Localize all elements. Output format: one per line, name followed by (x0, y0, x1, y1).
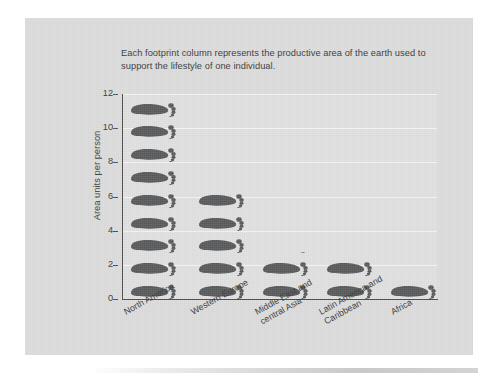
y-tick-mark (113, 231, 118, 232)
footprint-marker (127, 100, 179, 117)
footprint-marker (195, 236, 247, 253)
footprint-chart: 12 10 8 6 4 2 0 Area units per person No… (83, 84, 448, 314)
footprint-column-latin-america (323, 94, 381, 299)
plot-area (123, 94, 437, 299)
footprint-marker (195, 259, 247, 276)
y-tick-mark (113, 128, 118, 129)
footprint-marker (127, 191, 179, 208)
footprint-marker-partial (259, 249, 311, 253)
y-tick-mark (113, 94, 118, 95)
page-bottom-gradient-bar (90, 368, 478, 373)
y-tick-mark (113, 299, 118, 300)
y-tick-label: 0 (83, 293, 113, 303)
footprint-column-africa (387, 94, 445, 299)
footprint-marker (323, 259, 375, 276)
footprint-marker (127, 168, 179, 185)
footprint-marker (127, 145, 179, 162)
footprint-marker (259, 259, 311, 276)
y-axis-title: Area units per person (91, 91, 102, 261)
y-tick-mark (113, 197, 118, 198)
scanned-page: Each footprint column represents the pro… (0, 0, 498, 377)
footprint-column-western-europe (195, 94, 253, 299)
chart-caption: Each footprint column represents the pro… (121, 47, 441, 72)
footprint-column-middle-east (259, 94, 317, 299)
y-axis-line (122, 94, 123, 300)
footprint-marker (127, 214, 179, 231)
footprint-marker (195, 191, 247, 208)
footprint-marker (387, 282, 439, 299)
footprint-marker (127, 259, 179, 276)
footprint-marker (127, 122, 179, 139)
footprint-marker (195, 214, 247, 231)
footprint-column-north-america (127, 94, 185, 299)
y-tick-mark (113, 162, 118, 163)
x-axis-labels: North America Western Europe Middle East… (123, 302, 439, 372)
y-tick-mark (113, 265, 118, 266)
footprint-marker (127, 236, 179, 253)
chart-panel: Each footprint column represents the pro… (25, 18, 473, 355)
